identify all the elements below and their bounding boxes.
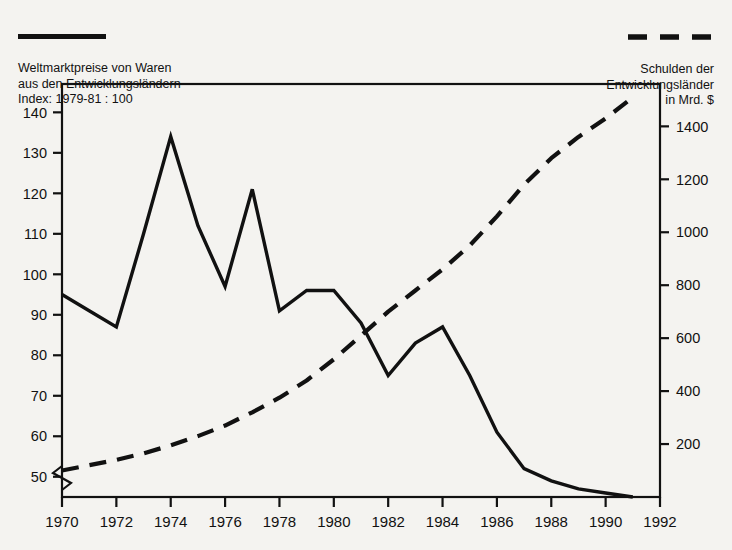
right-axis-tick-label: 200 — [676, 436, 700, 452]
right-axis-ticks: 200400600800100012001400 — [660, 119, 708, 453]
left-axis-tick-label: 120 — [23, 186, 47, 202]
x-axis-tick-label: 1972 — [100, 513, 133, 530]
x-axis-ticks: 1970197219741976197819801982198419861988… — [45, 497, 676, 530]
series-line-commodity-prices — [62, 137, 633, 497]
left-axis-tick-label: 80 — [31, 347, 47, 363]
left-axis-ticks: 5060708090100110120130140 — [23, 105, 62, 485]
left-axis-tick-label: 100 — [23, 267, 47, 283]
chart-plot: 5060708090100110120130140 20040060080010… — [0, 0, 732, 550]
right-axis-tick-label: 1000 — [676, 224, 708, 240]
left-axis-tick-label: 70 — [31, 388, 47, 404]
x-axis-tick-label: 1976 — [208, 513, 241, 530]
x-axis-tick-label: 1992 — [643, 513, 676, 530]
right-axis-tick-label: 800 — [676, 277, 700, 293]
chart-page: Weltmarktpreise von Waren aus den Entwic… — [0, 0, 732, 550]
x-axis-tick-label: 1982 — [371, 513, 404, 530]
x-axis-tick-label: 1986 — [480, 513, 513, 530]
x-axis-tick-label: 1978 — [263, 513, 296, 530]
x-axis-tick-label: 1970 — [45, 513, 78, 530]
left-axis-tick-label: 60 — [31, 428, 47, 444]
left-axis-tick-label: 140 — [23, 105, 47, 121]
left-axis-tick-label: 90 — [31, 307, 47, 323]
left-axis-tick-label: 130 — [23, 145, 47, 161]
x-axis-tick-label: 1984 — [426, 513, 459, 530]
left-axis-tick-label: 110 — [24, 226, 47, 242]
x-axis-tick-label: 1988 — [535, 513, 568, 530]
x-axis-tick-label: 1980 — [317, 513, 350, 530]
x-axis-tick-label: 1990 — [589, 513, 622, 530]
right-axis-tick-label: 400 — [676, 383, 700, 399]
right-axis-tick-label: 600 — [676, 330, 700, 346]
left-axis-tick-label: 50 — [31, 469, 47, 485]
right-axis-tick-label: 1200 — [676, 172, 708, 188]
x-axis-tick-label: 1974 — [154, 513, 187, 530]
right-axis-tick-label: 1400 — [676, 119, 708, 135]
series-line-developing-country-debt — [62, 97, 633, 470]
